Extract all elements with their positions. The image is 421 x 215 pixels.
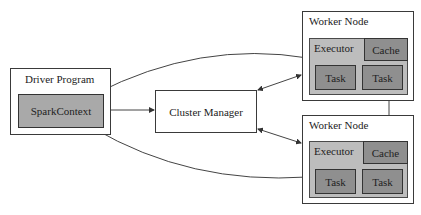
- cache-1-label: Cache: [372, 44, 399, 56]
- task-1-1-label: Task: [325, 72, 346, 84]
- task-1-2-label: Task: [372, 72, 393, 84]
- task-2-1: Task: [315, 169, 356, 194]
- arrow-driver-executor1: [95, 54, 308, 95]
- cluster-manager-box: Cluster Manager: [155, 90, 257, 133]
- arrow-cluster-worker2: [258, 129, 301, 143]
- task-2-2-label: Task: [372, 176, 393, 188]
- worker-node-2-title: Worker Node: [309, 119, 368, 131]
- arrow-driver-executor2: [93, 128, 308, 178]
- cache-1: Cache: [364, 38, 408, 61]
- task-1-2: Task: [362, 65, 403, 90]
- spark-context-label: SparkContext: [31, 105, 92, 117]
- task-1-1: Task: [315, 65, 356, 90]
- task-2-1-label: Task: [325, 176, 346, 188]
- spark-context-box: SparkContext: [18, 94, 104, 128]
- arrow-cluster-worker1: [258, 75, 301, 90]
- task-2-2: Task: [362, 169, 403, 194]
- cluster-manager-label: Cluster Manager: [169, 106, 243, 118]
- worker-node-1-title: Worker Node: [309, 15, 368, 27]
- cache-2-label: Cache: [372, 147, 399, 159]
- executor-2-label: Executor: [314, 145, 354, 157]
- cache-2: Cache: [363, 141, 408, 164]
- driver-program-title: Driver Program: [25, 73, 94, 85]
- executor-1-label: Executor: [314, 42, 354, 54]
